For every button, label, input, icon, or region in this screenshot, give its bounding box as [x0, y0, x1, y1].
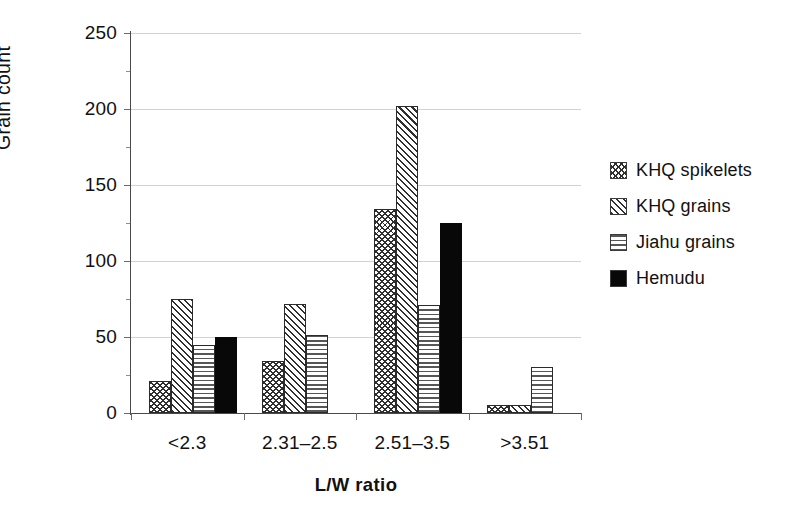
legend-label: KHQ grains [636, 196, 731, 217]
bar-chart: Grain count 050100150200250 <2.32.31–2.5… [0, 0, 797, 531]
legend-item: Hemudu [610, 260, 752, 296]
bar-group [469, 33, 582, 413]
bar [374, 209, 396, 413]
bar-group [356, 33, 469, 413]
bar [262, 361, 284, 413]
x-category-label: 2.31–2.5 [262, 432, 338, 454]
bar-group [244, 33, 357, 413]
x-category-label: <2.3 [168, 432, 206, 454]
bar [531, 367, 553, 413]
x-tick-mark [469, 413, 470, 420]
bar [487, 405, 509, 413]
y-axis-line [130, 31, 131, 415]
bar [284, 304, 306, 413]
legend-label: KHQ spikelets [636, 160, 752, 181]
bar [215, 337, 237, 413]
y-tick-label: 250 [85, 22, 117, 44]
legend-label: Hemudu [636, 268, 705, 289]
legend-item: KHQ spikelets [610, 152, 752, 188]
legend-item: Jiahu grains [610, 224, 752, 260]
bar [509, 405, 531, 413]
x-tick-mark [244, 413, 245, 420]
y-axis-label: Grain count [0, 46, 15, 150]
x-category-label: 2.51–3.5 [374, 432, 450, 454]
legend-label: Jiahu grains [636, 232, 735, 253]
x-tick-mark [581, 413, 582, 420]
y-tick-label: 50 [95, 326, 117, 348]
legend-swatch-icon [610, 234, 627, 251]
bar-group [131, 33, 244, 413]
x-axis-title: L/W ratio [315, 474, 398, 496]
y-tick-label: 200 [85, 98, 117, 120]
y-tick-label: 150 [85, 174, 117, 196]
legend-item: KHQ grains [610, 188, 752, 224]
legend-swatch-icon [610, 198, 627, 215]
bar [396, 106, 418, 413]
plot-area [131, 33, 581, 413]
x-tick-mark [131, 413, 132, 420]
bar [440, 223, 462, 413]
bar [149, 381, 171, 413]
legend-swatch-icon [610, 270, 627, 287]
x-category-label: >3.51 [500, 432, 549, 454]
bar [193, 345, 215, 413]
y-tick-label: 0 [106, 402, 117, 424]
y-tick-label: 100 [85, 250, 117, 272]
bar [418, 305, 440, 413]
x-tick-mark [356, 413, 357, 420]
chart-legend: KHQ spikeletsKHQ grainsJiahu grainsHemud… [610, 152, 752, 296]
bar [306, 335, 328, 413]
legend-swatch-icon [610, 162, 627, 179]
bar [171, 299, 193, 413]
